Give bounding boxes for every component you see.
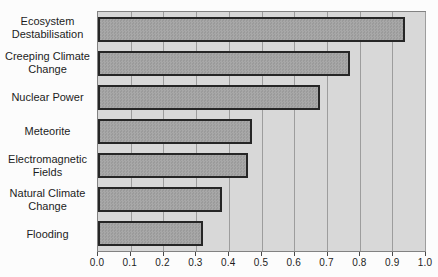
x-axis-tick-label: 0.9 xyxy=(385,257,400,268)
category-label: Natural Climate Change xyxy=(0,183,95,217)
bar xyxy=(98,187,222,212)
x-axis-tick-label: 0.0 xyxy=(90,257,105,268)
bar-row xyxy=(98,12,425,46)
x-axis-tick-label: 0.6 xyxy=(287,257,302,268)
x-axis-tick xyxy=(130,252,131,256)
bar-row xyxy=(98,114,425,148)
risk-perception-bar-chart: Ecosystem DestabilisationCreeping Climat… xyxy=(0,0,438,277)
category-axis: Ecosystem DestabilisationCreeping Climat… xyxy=(0,11,95,252)
bar-row xyxy=(98,80,425,114)
bar-row xyxy=(98,46,425,80)
x-axis-tick xyxy=(228,252,229,256)
x-axis-tick-label: 0.1 xyxy=(123,257,138,268)
category-label: Creeping Climate Change xyxy=(0,45,95,79)
x-axis-tick xyxy=(261,252,262,256)
x-axis-tick xyxy=(163,252,164,256)
x-axis-tick xyxy=(327,252,328,256)
x-axis-tick-label: 1.0 xyxy=(418,257,433,268)
bar xyxy=(98,221,203,246)
x-axis-tick-label: 0.3 xyxy=(188,257,203,268)
bar-row xyxy=(98,149,425,183)
x-axis-tick xyxy=(294,252,295,256)
x-axis-tick xyxy=(359,252,360,256)
plot-area xyxy=(97,11,426,252)
bar-series xyxy=(98,12,425,251)
category-label: Meteorite xyxy=(0,114,95,148)
bar xyxy=(98,51,350,76)
category-label: Nuclear Power xyxy=(0,80,95,114)
bar xyxy=(98,153,248,178)
x-axis-tick-label: 0.4 xyxy=(221,257,236,268)
x-axis-tick xyxy=(392,252,393,256)
x-axis-tick xyxy=(97,252,98,256)
bar-row xyxy=(98,217,425,251)
bar xyxy=(98,119,252,144)
x-axis-tick-label: 0.5 xyxy=(254,257,269,268)
category-label: Electromagnetic Fields xyxy=(0,149,95,183)
x-axis-tick-label: 0.2 xyxy=(155,257,170,268)
bar-row xyxy=(98,183,425,217)
bar xyxy=(98,85,320,110)
category-label: Flooding xyxy=(0,218,95,252)
x-axis-tick xyxy=(195,252,196,256)
bar xyxy=(98,17,405,42)
x-axis-tick xyxy=(425,252,426,256)
x-axis-tick-label: 0.8 xyxy=(352,257,367,268)
gridline xyxy=(425,12,426,251)
category-label: Ecosystem Destabilisation xyxy=(0,11,95,45)
x-axis-tick-label: 0.7 xyxy=(319,257,334,268)
